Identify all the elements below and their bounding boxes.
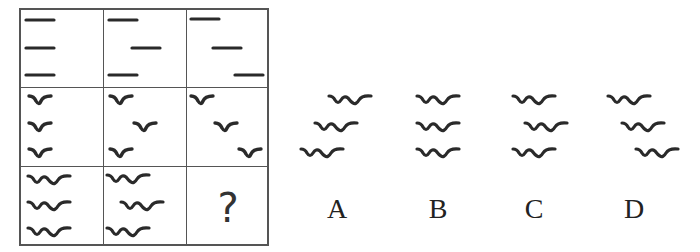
double-wave-icon (312, 119, 360, 135)
cell-r2-c1 (21, 88, 103, 165)
wave-icon (131, 119, 159, 135)
wave-icon (26, 119, 54, 135)
double-wave-icon (25, 198, 73, 214)
option-label: D (614, 193, 654, 225)
double-wave-icon (104, 224, 152, 240)
cell-r3-c2 (104, 167, 186, 244)
double-wave-icon (414, 145, 462, 161)
cell-r1-c2 (104, 10, 186, 87)
dash-icon (24, 72, 56, 78)
wave-icon (188, 92, 216, 108)
double-wave-icon (25, 172, 73, 188)
cell-r1-c3 (187, 10, 269, 87)
dash-icon (189, 16, 221, 22)
double-wave-icon (522, 119, 570, 135)
dash-icon (211, 45, 243, 51)
question-mark: ? (187, 185, 269, 231)
double-wave-icon (414, 119, 462, 135)
puzzle-grid: ? (19, 8, 269, 246)
double-wave-icon (104, 171, 152, 187)
double-wave-icon (510, 92, 558, 108)
wave-icon (236, 145, 264, 161)
double-wave-icon (25, 224, 73, 240)
dash-icon (233, 72, 265, 78)
double-wave-icon (619, 119, 667, 135)
dash-icon (24, 17, 56, 23)
option-label: B (418, 193, 458, 225)
dash-icon (24, 45, 56, 51)
cell-r2-c3 (187, 88, 269, 165)
cell-r3-c1 (21, 167, 103, 244)
dash-icon (130, 45, 162, 51)
dash-icon (107, 72, 139, 78)
double-wave-icon (633, 145, 681, 161)
dash-icon (107, 17, 139, 23)
cell-r3-c3-missing: ? (187, 167, 269, 244)
option-label: A (317, 193, 357, 225)
double-wave-icon (298, 145, 346, 161)
wave-icon (212, 119, 240, 135)
wave-icon (26, 92, 54, 108)
double-wave-icon (326, 92, 374, 108)
cell-r2-c2 (104, 88, 186, 165)
option-label: C (514, 193, 554, 225)
double-wave-icon (605, 92, 653, 108)
double-wave-icon (510, 145, 558, 161)
double-wave-icon (414, 92, 462, 108)
wave-icon (107, 145, 135, 161)
cell-r1-c1 (21, 10, 103, 87)
wave-icon (107, 92, 135, 108)
double-wave-icon (118, 198, 166, 214)
wave-icon (26, 145, 54, 161)
